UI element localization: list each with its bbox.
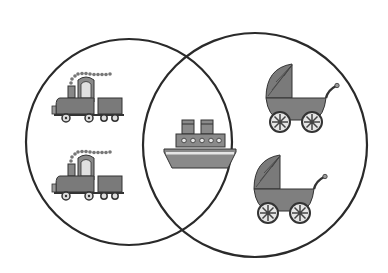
venn-diagram bbox=[0, 0, 388, 273]
baby-carriage-icon bbox=[254, 155, 327, 223]
train-icon bbox=[52, 72, 124, 122]
train-icon bbox=[52, 150, 124, 200]
baby-carriage-icon bbox=[266, 64, 339, 132]
ship-icon bbox=[164, 120, 236, 168]
